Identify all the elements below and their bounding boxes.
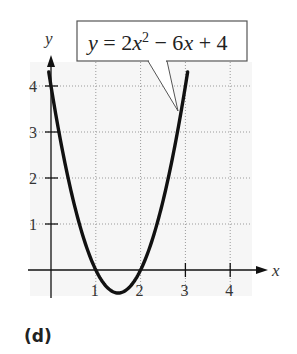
y-tick-label: 3: [29, 124, 37, 141]
x-tick-label: 1: [91, 282, 99, 299]
y-axis-arrow-icon: [47, 55, 55, 67]
parabola-chart: 12341234 x y y = 2x2 − 6x + 4: [0, 0, 297, 354]
x-axis-arrow-icon: [256, 266, 268, 274]
y-tick-label: 2: [29, 170, 37, 187]
y-tick-label: 4: [29, 78, 37, 95]
x-tick-label: 3: [180, 282, 188, 299]
x-tick-label: 4: [225, 282, 233, 299]
x-axis-label: x: [271, 261, 280, 280]
y-axis-label: y: [43, 29, 53, 48]
panel-label: (d): [24, 326, 52, 346]
x-tick-label: 2: [136, 282, 144, 299]
y-tick-label: 1: [29, 216, 37, 233]
equation-label: y = 2x2 − 6x + 4: [86, 30, 228, 55]
